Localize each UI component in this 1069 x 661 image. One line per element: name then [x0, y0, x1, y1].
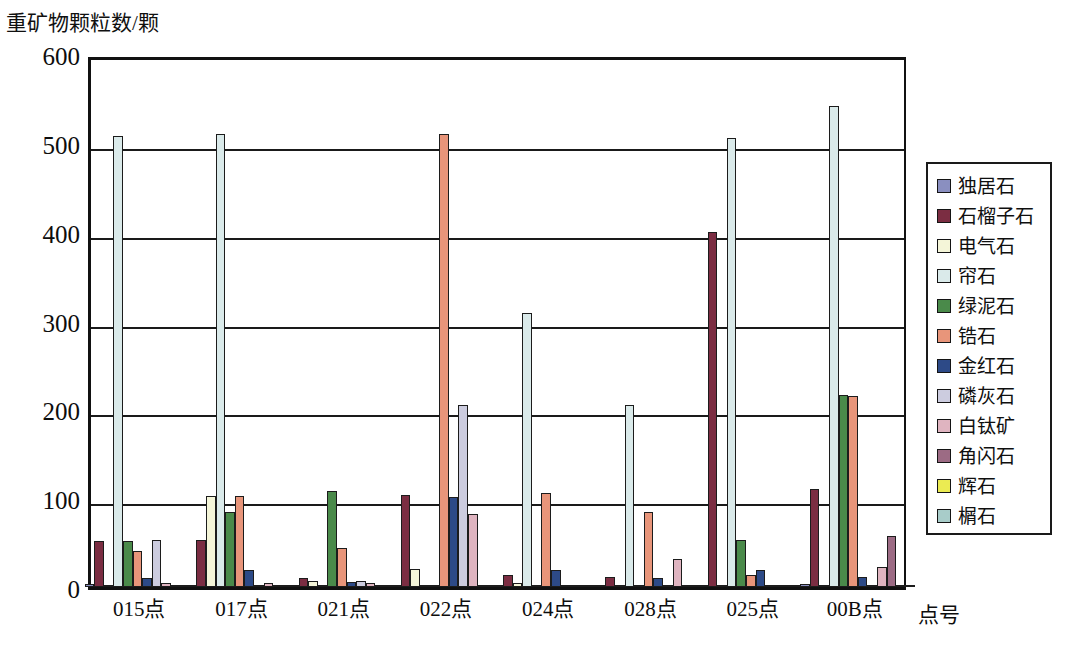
x-tick-5: 028点: [599, 598, 701, 621]
bar: [244, 570, 254, 587]
bar-group: [289, 60, 404, 587]
x-tick-1: 017点: [190, 598, 292, 621]
bar-group: [391, 60, 506, 587]
bar: [784, 585, 794, 588]
bar: [551, 570, 561, 587]
bar: [410, 569, 420, 587]
bar: [273, 585, 283, 588]
bar: [299, 578, 309, 587]
x-tick-6: 025点: [702, 598, 804, 621]
bar: [708, 232, 718, 587]
bar: [858, 577, 868, 587]
legend-swatch-icon: [937, 389, 951, 403]
legend-item[interactable]: 白钛矿: [937, 411, 1050, 441]
bar: [625, 405, 635, 587]
bar: [634, 585, 644, 588]
bar: [736, 540, 746, 587]
legend-item[interactable]: 电气石: [937, 231, 1050, 261]
legend-item-label: 独居石: [958, 177, 1015, 196]
plot-area: [88, 57, 906, 590]
legend-item[interactable]: 绿泥石: [937, 291, 1050, 321]
bar: [682, 585, 692, 588]
bar: [570, 585, 580, 588]
legend-swatch-icon: [937, 479, 951, 493]
bar: [848, 396, 858, 587]
bar-group: [85, 60, 200, 587]
bar: [727, 138, 737, 587]
legend-item[interactable]: 角闪石: [937, 441, 1050, 471]
bar: [391, 585, 401, 588]
legend-item-label: 磷灰石: [958, 387, 1015, 406]
bar: [142, 578, 152, 587]
legend-item[interactable]: 石榴子石: [937, 201, 1050, 231]
bar: [458, 405, 468, 587]
legend-item[interactable]: 独居石: [937, 171, 1050, 201]
figure-caption: [0, 645, 1069, 661]
bar: [800, 584, 810, 587]
bar: [819, 585, 829, 588]
y-tick-100: 100: [6, 488, 80, 513]
bar: [698, 585, 708, 588]
y-axis-tick-labels: 0100200300400500600: [0, 57, 80, 590]
bar: [123, 541, 133, 587]
bar: [522, 313, 532, 587]
bar: [196, 540, 206, 587]
legend-swatch-icon: [937, 239, 951, 253]
x-axis-tick-labels: 015点017点021点022点024点028点025点00B点: [88, 598, 906, 628]
bar-group: [494, 60, 609, 587]
legend-item-label: 电气石: [958, 237, 1015, 256]
legend-swatch-icon: [937, 329, 951, 343]
bar: [85, 584, 95, 587]
legend-item-label: 锆石: [958, 327, 996, 346]
bar-group: [698, 60, 813, 587]
y-tick-0: 0: [6, 577, 80, 602]
bar: [896, 585, 906, 588]
bar: [206, 496, 216, 587]
y-tick-300: 300: [6, 311, 80, 336]
bar: [765, 585, 775, 588]
bar: [810, 489, 820, 587]
y-tick-200: 200: [6, 399, 80, 424]
legend-item[interactable]: 磷灰石: [937, 381, 1050, 411]
legend-item[interactable]: 金红石: [937, 351, 1050, 381]
bar: [596, 585, 606, 588]
legend-item[interactable]: 榍石: [937, 501, 1050, 531]
legend-swatch-icon: [937, 359, 951, 373]
legend-swatch-icon: [937, 419, 951, 433]
legend-swatch-icon: [937, 449, 951, 463]
bar: [171, 585, 181, 588]
bar: [877, 567, 887, 587]
bar-group: [187, 60, 302, 587]
bar: [216, 134, 226, 587]
x-tick-4: 024点: [497, 598, 599, 621]
bar: [254, 585, 264, 588]
bar: [561, 585, 571, 588]
bar: [356, 581, 366, 587]
bar: [449, 497, 459, 587]
legend-item-label: 辉石: [958, 477, 996, 496]
legend-item[interactable]: 锆石: [937, 321, 1050, 351]
x-tick-3: 022点: [395, 598, 497, 621]
legend-item-label: 白钛矿: [958, 417, 1015, 436]
x-tick-7: 00B点: [804, 598, 906, 621]
bar: [532, 585, 542, 588]
bar: [264, 583, 274, 587]
bar: [653, 578, 663, 587]
bar: [513, 583, 523, 587]
legend-swatch-icon: [937, 509, 951, 523]
bar: [615, 585, 625, 588]
bar: [161, 583, 171, 587]
bar: [439, 134, 449, 587]
bar: [746, 575, 756, 587]
legend-item[interactable]: 辉石: [937, 471, 1050, 501]
bar: [580, 585, 590, 588]
bar: [829, 106, 839, 587]
bar-series-layer: [91, 60, 904, 587]
legend-swatch-icon: [937, 179, 951, 193]
legend-item[interactable]: 帘石: [937, 261, 1050, 291]
legend-swatch-icon: [937, 299, 951, 313]
bar: [468, 514, 478, 587]
bar: [113, 136, 123, 587]
bar: [887, 536, 897, 587]
bar: [327, 491, 337, 587]
